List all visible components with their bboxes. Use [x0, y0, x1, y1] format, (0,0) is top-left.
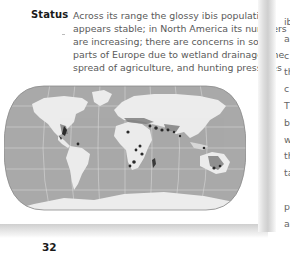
status-line: appears stable; in North America its num…: [73, 22, 263, 35]
status-line: spread of agriculture, and hunting press…: [73, 61, 263, 74]
status-line: parts of Europe due to wetland drainage,…: [73, 48, 263, 61]
left-page: Status Across its range the glossy ibis …: [0, 0, 262, 226]
text-fragment: ta: [284, 165, 290, 182]
page-gutter: [258, 0, 276, 232]
text-fragment: c: [284, 48, 290, 65]
status-line: Across its range the glossy ibis populat…: [73, 9, 263, 22]
text-fragment: b: [284, 115, 290, 132]
text-fragment: th: [284, 64, 290, 81]
right-page-text-fragments: ib a c th c T b w th ta p a: [284, 14, 290, 232]
text-fragment: w: [284, 132, 290, 149]
text-fragment: c: [284, 81, 290, 98]
world-distribution-map: [4, 84, 246, 212]
text-fragment: T: [284, 98, 290, 115]
text-fragment: th: [284, 148, 290, 165]
status-heading: Status: [31, 9, 68, 20]
status-description: Across its range the glossy ibis populat…: [73, 9, 263, 74]
page-number: 32: [42, 241, 57, 253]
status-line: are increasing; there are concerns in so…: [73, 35, 263, 48]
page-bottom-shadow: [0, 224, 268, 238]
text-fragment: a: [284, 31, 290, 48]
text-fragment: a: [284, 216, 290, 233]
text-fragment: ib: [284, 14, 290, 31]
text-fragment: [284, 182, 290, 199]
scan-speck: [62, 34, 65, 35]
text-fragment: p: [284, 199, 290, 216]
